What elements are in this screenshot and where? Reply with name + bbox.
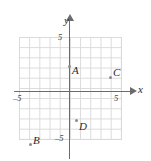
data-point-b — [29, 143, 32, 146]
data-point-label-d: D — [79, 120, 87, 132]
y-axis-label: y — [64, 14, 69, 26]
x-axis-tick-label-positive-five: 5 — [114, 93, 118, 103]
x-axis-tick-label-negative-five: –5 — [13, 93, 22, 103]
data-point-label-a: A — [72, 64, 79, 76]
x-axis-arrow-icon — [130, 87, 137, 95]
data-point-label-b: B — [33, 134, 40, 146]
y-axis-tick-label-negative-five: –5 — [55, 133, 64, 143]
grid-background — [19, 37, 122, 140]
data-point-d — [75, 119, 78, 122]
x-axis-label: x — [138, 83, 143, 95]
y-axis-line — [69, 20, 70, 159]
data-point-label-c: C — [113, 66, 120, 78]
y-axis-tick-label-positive-five: 5 — [58, 32, 62, 42]
data-point-c — [109, 76, 112, 79]
coordinate-plane-figure: x y –5 5 5 –5 A B C D — [0, 0, 151, 161]
data-point-a — [68, 65, 71, 68]
